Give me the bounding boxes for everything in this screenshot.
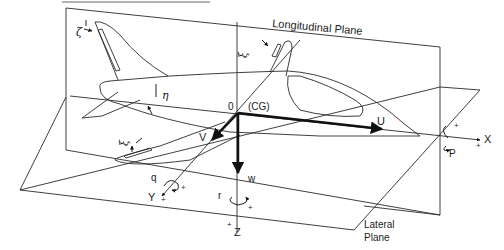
rudder-angle-label: ζ <box>76 26 83 39</box>
elevator-deflection-icon <box>148 84 156 114</box>
elevator-angle-label: η <box>162 89 169 102</box>
x-rotation-plus: + <box>454 121 459 130</box>
q-label: q <box>151 172 157 183</box>
v-vector <box>212 113 238 140</box>
v-label: V <box>199 131 207 143</box>
aileron-right-deflection-icon <box>262 40 268 46</box>
wing-left <box>115 122 240 164</box>
canopy <box>288 76 364 116</box>
r-label: r <box>218 190 222 201</box>
q-rotation-plus: + <box>181 183 186 192</box>
horizontal-tail <box>82 92 140 118</box>
cg-label: (CG) <box>248 101 270 112</box>
y-axis-plus: + <box>161 195 166 204</box>
origin-label: 0 <box>228 101 234 112</box>
aircraft-axes-diagram: Longitudinal Plane Lateral Plane 0 (CG) … <box>0 0 504 250</box>
r-rotation-icon <box>230 197 247 205</box>
p-label: P <box>449 148 456 159</box>
rudder <box>98 29 120 71</box>
x-axis-plus: + <box>476 141 481 150</box>
aileron-left-angle-label: ξ <box>118 139 131 146</box>
lateral-plane-label-2: Plane <box>364 232 390 243</box>
aileron-right-angle-label: ξ <box>237 51 250 58</box>
y-axis-label: Y <box>148 191 156 203</box>
x-axis-label: X <box>484 133 492 145</box>
w-label: w <box>247 173 256 184</box>
u-label: U <box>377 115 385 127</box>
lateral-plane-label-1: Lateral <box>364 219 395 230</box>
r-rotation-plus: + <box>248 203 253 212</box>
z-axis-plus: + <box>227 220 232 229</box>
aileron-right <box>272 44 281 57</box>
aileron-left-deflection-icon <box>132 138 142 152</box>
z-axis-label: Z <box>234 226 241 238</box>
rudder-deflection-icon <box>84 20 92 31</box>
